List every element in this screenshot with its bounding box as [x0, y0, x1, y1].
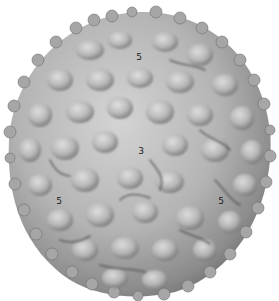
- fivefold-axis-label-top: 5: [136, 53, 142, 62]
- fivefold-axis-label-left: 5: [56, 197, 62, 206]
- fivefold-axis-label-right: 5: [218, 197, 224, 206]
- capsid-figure: 5 3 5 5: [0, 0, 279, 301]
- threefold-axis-label-center: 3: [138, 147, 144, 156]
